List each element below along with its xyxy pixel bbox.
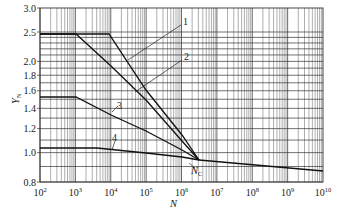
x-tick-label: 106: [175, 186, 189, 198]
x-tick-label: 109: [281, 186, 294, 198]
curve-4: [40, 148, 199, 160]
curve-1-label: 1: [183, 16, 188, 27]
x-axis-title: N: [169, 198, 178, 209]
y-tick-label: 1.8: [24, 70, 37, 81]
leader-lines: [112, 25, 195, 168]
y-tick-label: 3.0: [24, 3, 37, 14]
y-tick-label: 2.5: [24, 27, 37, 38]
y-axis-title: YN: [10, 93, 22, 104]
curve-4-label: 4: [112, 132, 117, 143]
x-tick-label: 103: [69, 186, 82, 198]
y-tick-label: 1.2: [24, 123, 37, 134]
y-tick-label: 1.4: [24, 103, 37, 114]
x-tick-label: 108: [246, 186, 259, 198]
y-tick-label: 1.6: [24, 85, 37, 96]
y-tick-labels: 3.02.52.01.81.61.41.21.00.8: [24, 3, 41, 188]
x-tick-label: 1010: [315, 186, 332, 198]
x-tick-label: 105: [140, 186, 153, 198]
curve-2-label: 2: [184, 51, 189, 62]
x-tick-label: 102: [33, 186, 46, 198]
x-tick-labels: 1021031041051061071081091010: [33, 186, 331, 198]
chart: 1 2 3 4 NC 3.02.52.01.81.61.41.21.00.8 1…: [0, 0, 337, 211]
curve-3-label: 3: [117, 100, 122, 111]
x-tick-label: 107: [210, 186, 224, 198]
y-tick-label: 0.8: [24, 177, 37, 188]
y-tick-label: 1.0: [24, 147, 37, 158]
x-tick-label: 104: [104, 186, 118, 198]
y-tick-label: 2.0: [24, 56, 37, 67]
